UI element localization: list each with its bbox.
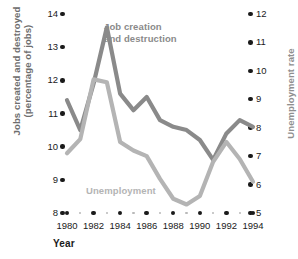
chart-figure: Jobs created and destroyed (percentage o… — [0, 0, 298, 259]
line-job-creation — [67, 27, 253, 160]
plot-lines — [0, 0, 298, 259]
line-unemployment — [67, 79, 253, 204]
